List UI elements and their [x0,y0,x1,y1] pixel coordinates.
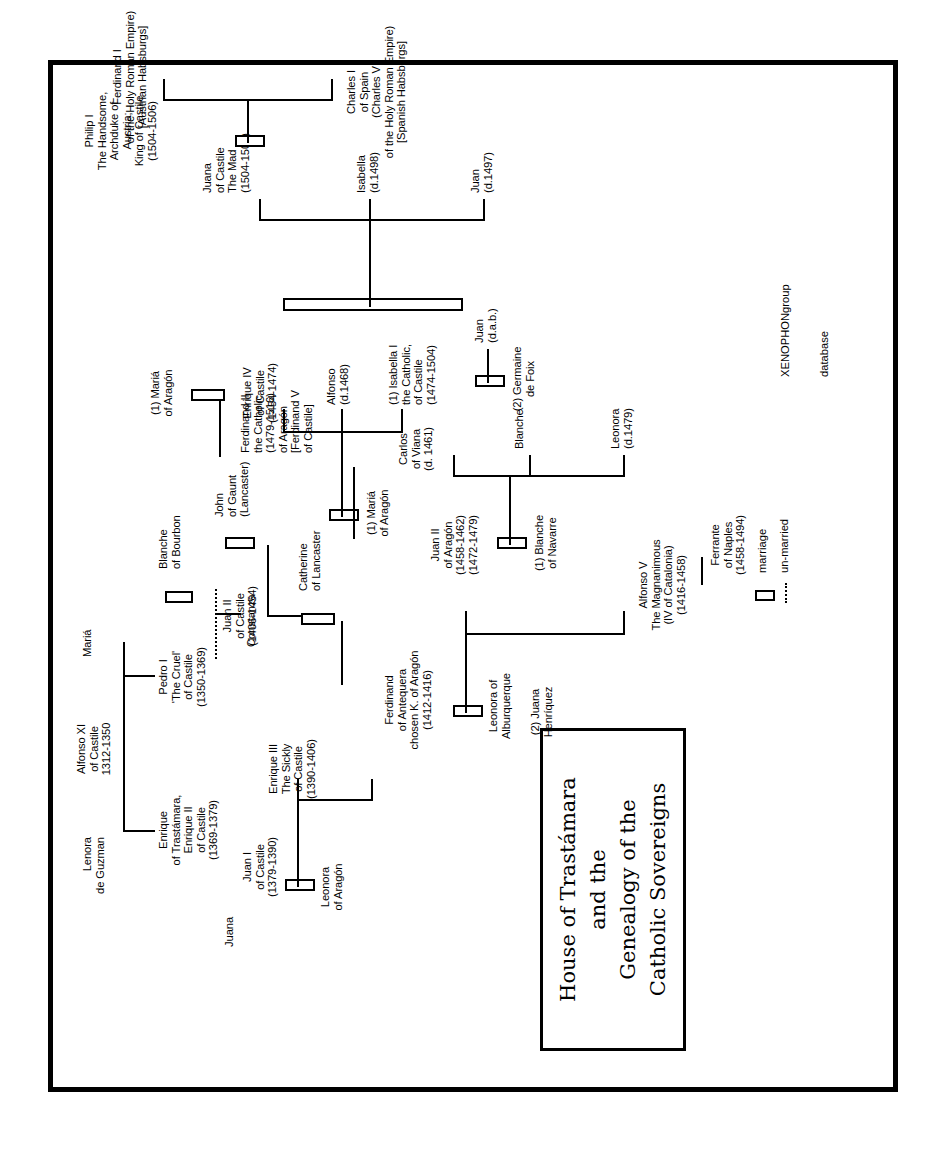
person-alfonso-v: Alfonso V The Magnanimous (IV of Catalon… [637,495,687,675]
person-carlos-of-viana: Carlos of Viana (d. 1461) [397,387,435,511]
title-line-2: and the [583,849,613,930]
line-alfonso-v-to-ferrante [701,557,703,585]
dotted-line-icon [785,583,787,603]
line-juan-ii-children [341,431,343,517]
person-juana-henriquez: (2) Juana Henríquez [529,647,554,777]
person-germaine-de-foix: (2) Germaine de Foix [511,311,536,447]
line-drop-pedro-i [123,675,155,677]
legend-row-marriage: marriage [753,427,775,607]
title-line-1: House of Trastámara [553,777,583,1002]
person-leonora-d1479: Leonora (d.1479) [609,339,634,449]
person-maria-of-aragon-2: (1) Mariá of Aragón [149,329,174,457]
person-catherine-of-lancaster: Catherine of Lancaster [297,461,322,591]
marriage-enrique-iv-maria [191,389,225,401]
line-juan-ii-aragon-children [509,475,511,545]
unmarried-link-pedro [215,589,217,659]
credit-block: XENOPHONgroup database [753,284,857,377]
line-philip-children-spine [163,99,333,101]
line-ferdinand-germaine-child [487,349,489,383]
line-catholic-monarchs-children [369,219,371,307]
title-line-3: Genealogy of the [613,799,643,980]
line-to-carlos-viana [453,455,455,477]
marriage-constanza-gaunt [225,537,255,549]
line-to-alfonso-v [623,611,625,635]
person-ferdinand-of-antequera: Ferdinand of Antequera chosen K. of Arag… [383,605,433,795]
line-to-juana-la-loca [259,199,261,221]
credit-line-1: XENOPHONgroup [779,284,792,377]
legend-unmarried-label: un-married [778,519,790,573]
person-enrique-iii: Enrique III The Sickly of Castile (1390-… [267,699,317,839]
person-maria-consort: Mariá [81,577,94,657]
person-juan-d1497: Juan (d.1497) [469,83,494,193]
chart-canvas-rotated: House of Trastámara and the Genealogy of… [53,65,883,1077]
title-line-4: Catholic Sovereigns [643,783,673,996]
line-to-leonora-d1479 [623,455,625,477]
marriage-enrique-iii-catherine [301,613,335,625]
line-to-ferdinand-antequera [371,779,373,801]
marriage-juana-philip [235,135,265,147]
line-philip-juana-children [247,99,249,143]
marriage-bar-icon [755,590,775,601]
legend: marriage un-married [753,427,797,607]
marriage-pedro-blanche [165,591,193,603]
person-isabella-i: (1) Isabella I the Catholic, of Castile … [387,255,437,405]
person-juan-ii-of-aragon: Juan II of Aragón (1458-1462) (1472-1479… [429,479,479,611]
line-catholic-children-spine [259,219,485,221]
line-to-juan-ii-aragon [465,611,467,635]
person-juan-ii-of-castile: Juan II of Castile (1406-1454) [221,551,259,681]
line-alfonso-xi-consorts [123,642,125,832]
line-drop-enrique-ii [123,830,155,832]
legend-row-unmarried: un-married [775,427,797,607]
marriage-juan-ii-blanche [497,537,527,549]
person-blanche-of-bourbon: Blanche of Bourbon [157,459,182,569]
line-ferdinand-children-spine [465,633,625,635]
person-enrique-ii: Enrique of Trastámara, Enrique II of Cas… [157,755,220,905]
marriage-ferdinand-germaine [475,375,505,387]
line-to-blanche [529,455,531,477]
legend-marriage-label: marriage [756,529,768,573]
person-pedro-i: Pedro I 'The Cruel' of Castile (1350-136… [157,615,207,739]
person-leonora-of-alburquerque: Leonora of Alburquerque [487,641,512,771]
person-ferdinand-i: Ferdinand I of the Holy Roman Empire) [A… [111,0,149,177]
title-box: House of Trastámara and the Genealogy of… [540,728,686,1051]
person-leonora-of-aragon: Leonora of Aragón [319,827,344,947]
line-juan-ii-aragon-children-spine [453,475,625,477]
person-alfonso-d1468: Alfonso (d.1468) [325,295,350,405]
person-juana-la-loca: Juana of Castile The Mad (1504-1506) [201,73,251,193]
person-juan-dab: Juan (d.a.b.) [473,243,498,343]
marriage-ferdinand-isabella [283,298,463,311]
marriage-juan-i-leonora [285,879,315,891]
genealogy-chart-page: House of Trastámara and the Genealogy of… [0,0,939,1149]
line-to-alfonso-d1468 [341,409,343,433]
person-lenora-de-guzman: Lenora de Guzman [81,837,106,947]
line-enrique-iv-stub [219,401,221,457]
line-to-ferdinand-ii [353,467,355,539]
line-drop-catherine [267,615,303,617]
marriage-ferdinand-leonora [453,705,483,717]
person-blanche-of-navarre: (1) Blanche of Navarre [533,477,558,609]
person-charles-i: Charles I of Spain (Charles V of the Hol… [345,0,408,207]
person-maria-of-aragon-1: (1) Mariá of Aragón [365,449,390,577]
chart-border: House of Trastámara and the Genealogy of… [48,60,898,1092]
line-to-juan-d1497 [483,199,485,221]
person-alfonso-xi: Alfonso XI of Castile 1312-1350 [75,689,113,809]
line-gaunt-descent [267,545,269,617]
person-juana-left: Juana [223,917,236,1007]
line-ferdinand-children [465,633,467,713]
person-ferrante-of-naples: Ferrante of Naples (1458-1494) [709,475,747,615]
line-to-ferdinand-i [163,79,165,101]
credit-line-2: database [818,284,831,377]
line-enrique-iii-to-juan-ii [341,621,343,685]
line-to-charles-i [331,79,333,101]
